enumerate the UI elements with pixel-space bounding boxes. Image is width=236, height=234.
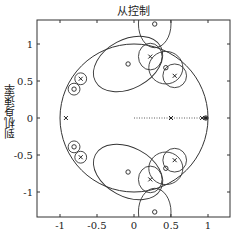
x-tick-label: 0.5 [163, 220, 179, 231]
uncertainty-ellipse [84, 133, 172, 211]
x-tick-label: -1 [55, 220, 65, 231]
pole-x-icon [173, 158, 177, 162]
x-tick-label: -0.5 [87, 220, 106, 231]
pole-x-icon [79, 155, 83, 159]
pole-x-icon [148, 55, 152, 59]
axis-ticks: -1-0.500.51-1-0.500.51 [14, 20, 230, 231]
x-tick-label: 0 [131, 220, 137, 231]
pole-x-icon [79, 77, 83, 81]
uncertainty-ellipse [84, 25, 172, 103]
pole-x-icon [173, 74, 177, 78]
y-tick-label: -0.5 [14, 150, 33, 161]
y-tick-label: -1 [23, 187, 33, 198]
uncertainty-ellipse [68, 141, 80, 153]
zero-o-icon [72, 145, 76, 149]
uncertainty-ellipses [68, 0, 186, 234]
zero-o-icon [126, 170, 130, 174]
uncertainty-ellipse [68, 83, 80, 95]
y-tick-label: 0.5 [17, 76, 33, 87]
zero-o-icon [126, 62, 130, 66]
pole-zero-plot: -1-0.500.51-1-0.500.51 [0, 0, 236, 234]
zero-o-icon [153, 210, 157, 214]
y-tick-label: 1 [27, 39, 33, 50]
pole-x-icon [148, 177, 152, 181]
pole-zero-markers [64, 22, 208, 214]
zero-o-icon [72, 87, 76, 91]
pole-x-icon [64, 116, 68, 120]
x-tick-label: 1 [205, 220, 211, 231]
zero-o-icon [153, 22, 157, 26]
y-tick-label: 0 [27, 113, 33, 124]
pole-zero-cluster-icon [204, 116, 208, 120]
